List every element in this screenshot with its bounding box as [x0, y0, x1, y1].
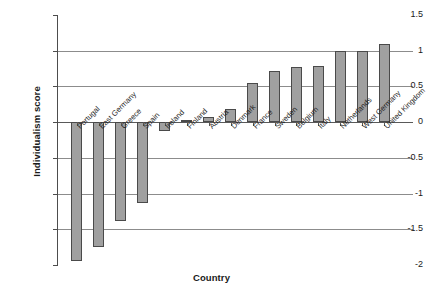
x-axis-title: Country	[0, 272, 423, 283]
y-tick-label: -2	[379, 260, 423, 269]
gridline	[58, 229, 413, 230]
y-tick-label: -1.5	[379, 224, 423, 233]
y-tick-mark	[53, 15, 58, 16]
y-tick-label: -1	[379, 189, 423, 198]
bar	[335, 51, 346, 122]
y-tick-mark	[53, 265, 58, 266]
y-tick-mark	[53, 51, 58, 52]
gridline	[58, 158, 413, 159]
y-tick-label: -0.5	[379, 153, 423, 162]
bar	[115, 122, 126, 221]
bar	[93, 122, 104, 247]
y-axis-title: Individualism score	[31, 42, 42, 222]
y-tick-label: 1	[379, 46, 423, 55]
bar	[71, 122, 82, 261]
plot-area	[58, 15, 413, 265]
gridline	[58, 265, 413, 266]
y-tick-mark	[53, 86, 58, 87]
y-tick-mark	[53, 194, 58, 195]
y-tick-mark	[53, 122, 58, 123]
y-tick-mark	[53, 158, 58, 159]
gridline	[58, 194, 413, 195]
bar	[137, 122, 148, 203]
y-tick-mark	[53, 229, 58, 230]
y-tick-label: 1.5	[379, 10, 423, 19]
